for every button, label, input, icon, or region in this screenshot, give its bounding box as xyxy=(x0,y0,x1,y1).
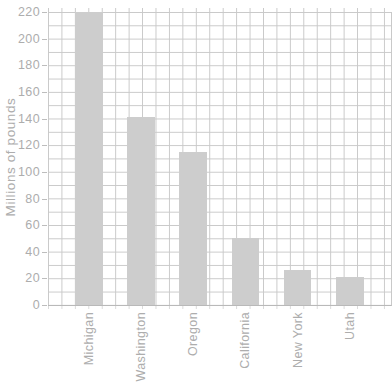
y-tick-mark-200 xyxy=(42,39,47,40)
grid-bottom-stubs xyxy=(48,306,391,309)
bar-oregon xyxy=(179,152,207,305)
y-tick-mark-180 xyxy=(42,65,47,66)
y-axis-title: Millions of pounds xyxy=(3,77,19,237)
y-tick-mark-160 xyxy=(42,92,47,93)
y-tick-label-20: 20 xyxy=(4,271,40,285)
y-tick-label-40: 40 xyxy=(4,245,40,259)
y-tick-label-60: 60 xyxy=(4,218,40,232)
y-tick-mark-80 xyxy=(42,199,47,200)
x-label-washington: Washington xyxy=(134,312,148,382)
y-tick-mark-40 xyxy=(42,252,47,253)
y-tick-mark-0 xyxy=(42,305,47,306)
y-tick-mark-100 xyxy=(42,172,47,173)
y-tick-label-200: 200 xyxy=(4,32,40,46)
x-label-california: California xyxy=(238,312,252,382)
y-tick-label-180: 180 xyxy=(4,58,40,72)
y-tick-label-220: 220 xyxy=(4,5,40,19)
y-tick-label-0: 0 xyxy=(4,298,40,312)
x-label-oregon: Oregon xyxy=(186,312,200,382)
y-tick-label-140: 140 xyxy=(4,112,40,126)
y-tick-mark-120 xyxy=(42,145,47,146)
x-label-new-york: New York xyxy=(291,312,305,382)
bar-michigan xyxy=(75,12,103,305)
y-tick-label-160: 160 xyxy=(4,85,40,99)
y-tick-label-100: 100 xyxy=(4,165,40,179)
x-label-utah: Utah xyxy=(343,312,357,382)
x-label-michigan: Michigan xyxy=(82,312,96,382)
y-tick-label-120: 120 xyxy=(4,138,40,152)
y-tick-mark-140 xyxy=(42,119,47,120)
y-tick-label-80: 80 xyxy=(4,192,40,206)
bar-washington xyxy=(127,117,155,305)
bar-new-york xyxy=(284,270,312,305)
y-tick-mark-20 xyxy=(42,278,47,279)
y-tick-mark-60 xyxy=(42,225,47,226)
y-tick-mark-220 xyxy=(42,12,47,13)
bar-california xyxy=(232,238,260,305)
bar-utah xyxy=(336,277,364,305)
plot-area xyxy=(48,12,392,306)
